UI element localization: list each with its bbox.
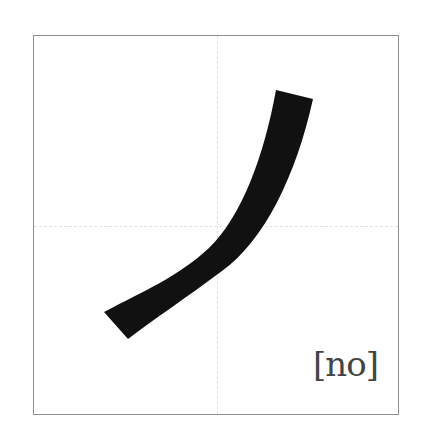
character-practice-box: [no] (33, 35, 399, 415)
romaji-label: [no] (313, 344, 378, 384)
